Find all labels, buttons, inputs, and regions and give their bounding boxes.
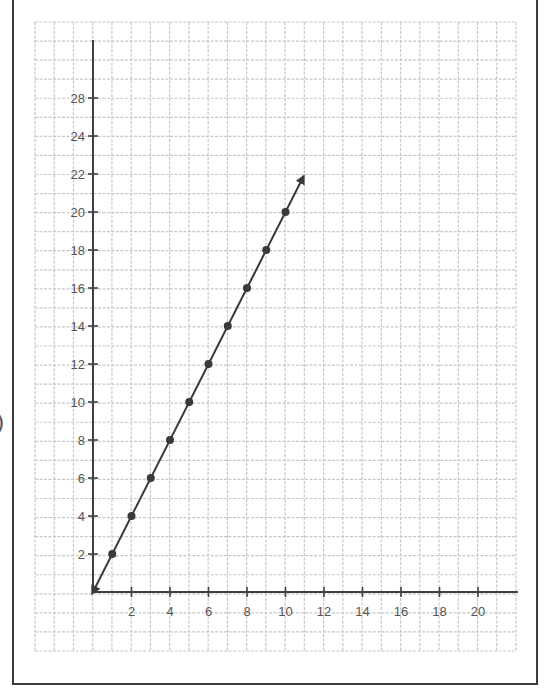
x-tick-label: 4: [166, 604, 173, 619]
x-tick-label: 16: [394, 604, 408, 619]
y-tick-label: 24: [71, 129, 85, 144]
axes: [88, 40, 518, 597]
y-tick-label: 4: [78, 509, 85, 524]
x-tick-label: 6: [205, 604, 212, 619]
chart-figure: ) 2468101214161820 246810121416182022242…: [0, 0, 552, 692]
y-tick-label: 22: [71, 167, 85, 182]
data-point: [108, 550, 116, 558]
x-tick-label: 8: [243, 604, 250, 619]
x-tick-label: 10: [278, 604, 292, 619]
y-tick-label: 14: [71, 319, 85, 334]
data-point: [205, 360, 213, 368]
y-tick-label: 12: [71, 357, 85, 372]
y-tick-label: 2: [78, 547, 85, 562]
y-tick-label: 10: [71, 395, 85, 410]
data-point: [243, 284, 251, 292]
clipped-edge-glyph: ): [0, 410, 5, 435]
graph-paper-grid: [35, 22, 516, 651]
x-tick-label: 12: [317, 604, 331, 619]
y-tick-labels: 2468101214161820222428: [71, 91, 85, 562]
y-tick-label: 18: [71, 243, 85, 258]
y-tick-label: 8: [78, 433, 85, 448]
x-tick-label: 20: [471, 604, 485, 619]
y-tick-label: 6: [78, 471, 85, 486]
data-point: [185, 398, 193, 406]
chart-svg: 2468101214161820 2468101214161820222428: [0, 0, 552, 692]
x-tick-label: 18: [432, 604, 446, 619]
x-tick-labels: 2468101214161820: [128, 604, 485, 619]
y-tick-label: 28: [71, 91, 85, 106]
data-point: [147, 474, 155, 482]
y-tick-label: 16: [71, 281, 85, 296]
data-point: [282, 208, 290, 216]
data-point: [166, 436, 174, 444]
y-tick-label: 20: [71, 205, 85, 220]
data-point: [224, 322, 232, 330]
data-point: [128, 512, 136, 520]
x-tick-label: 2: [128, 604, 135, 619]
data-point: [262, 246, 270, 254]
x-tick-label: 14: [355, 604, 369, 619]
